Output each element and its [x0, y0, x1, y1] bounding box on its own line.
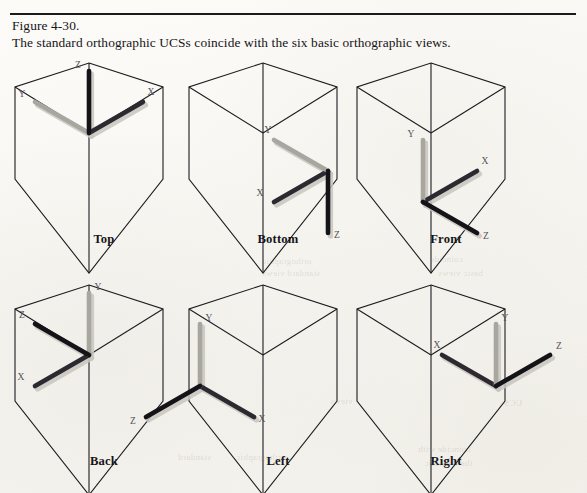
axis-bar-y — [274, 140, 328, 171]
axis-label-x: X — [257, 188, 264, 198]
axis-label-y: Y — [19, 89, 26, 99]
axis-label-z: Z — [556, 341, 562, 351]
page-bleedthrough-mark: the six basic — [424, 458, 472, 468]
cube-inner-edge — [431, 87, 505, 133]
axis-label-x: X — [482, 156, 489, 166]
axis-label-x: X — [434, 340, 441, 350]
cube-inner-edge — [189, 87, 263, 133]
ucs-diagram-front: XYZ — [356, 40, 536, 240]
ucs-axis-triad: XYZ — [408, 129, 490, 241]
view-label-front: Front — [356, 232, 536, 247]
ucs-view-back: XYZBack — [14, 262, 194, 477]
axis-bar-x — [35, 355, 89, 386]
cube-inner-edge — [89, 309, 163, 355]
ucs-view-top: XYZTop — [14, 40, 194, 255]
page-bleedthrough-mark: standard — [178, 452, 211, 462]
cube-inner-edge — [263, 87, 337, 133]
axis-label-y: Y — [408, 129, 415, 139]
figure-page: Figure 4-30. The standard orthographic U… — [0, 0, 587, 493]
ucs-axis-triad: XYZ — [19, 60, 155, 136]
axis-label-x: X — [148, 87, 155, 97]
ucs-axis-triad: XYZ — [434, 313, 563, 389]
view-label-top: Top — [14, 232, 194, 247]
page-bleedthrough-mark: orthographic — [262, 256, 312, 266]
axis-bar-y — [35, 102, 89, 133]
axis-bar-x — [200, 386, 254, 417]
axis-shadow — [499, 358, 553, 389]
axis-bar-x — [89, 102, 143, 133]
cube-inner-edge — [357, 87, 431, 133]
axis-bar-z — [496, 355, 550, 386]
axis-label-y: Y — [265, 125, 272, 135]
page-bleedthrough-mark: orthographic — [236, 452, 286, 462]
view-label-back: Back — [14, 454, 194, 469]
view-label-bottom: Bottom — [188, 232, 368, 247]
page-bleedthrough-mark: basic views — [438, 268, 483, 278]
axis-label-y: Y — [502, 313, 509, 323]
axis-label-z: Z — [75, 60, 81, 70]
axis-shadow — [38, 358, 92, 389]
ucs-diagram-right: XYZ — [356, 262, 536, 462]
axis-shadow — [92, 105, 146, 136]
axis-label-y: Y — [206, 313, 213, 323]
cube-inner-edge — [263, 309, 337, 355]
axis-shadow — [426, 174, 480, 205]
page-bleedthrough-mark: coincide with — [418, 444, 471, 454]
axis-label-x: X — [18, 372, 25, 382]
axis-label-x: X — [259, 414, 266, 424]
ucs-view-bottom: XYZBottom — [188, 40, 368, 255]
page-bleedthrough-mark: views — [330, 396, 353, 406]
axis-label-z: Z — [130, 416, 136, 426]
ucs-diagram-top: XYZ — [14, 40, 194, 240]
axis-label-y: Y — [95, 282, 102, 292]
ucs-axis-triad: XYZ — [257, 125, 341, 240]
ucs-view-front: XYZFront — [356, 40, 536, 255]
page-bleedthrough-mark: UCSs — [500, 398, 522, 408]
axis-bar-x — [274, 171, 328, 202]
orthographic-views-grid: XYZTopXYZBottomXYZFrontXYZBackXYZLeftXYZ… — [0, 0, 587, 493]
page-bleedthrough-mark: coincide — [430, 254, 463, 264]
axis-label-z: Z — [19, 310, 25, 320]
cube-inner-edge — [357, 309, 431, 355]
ucs-view-left: XYZLeft — [188, 262, 368, 477]
axis-bar-z — [35, 324, 89, 355]
ucs-diagram-back: XYZ — [14, 262, 194, 462]
page-bleedthrough-mark: standard views — [262, 268, 320, 278]
axis-shadow — [277, 174, 331, 205]
ucs-diagram-left: XYZ — [188, 262, 368, 462]
axis-bar-x — [442, 355, 496, 386]
ucs-diagram-bottom: XYZ — [188, 40, 368, 240]
